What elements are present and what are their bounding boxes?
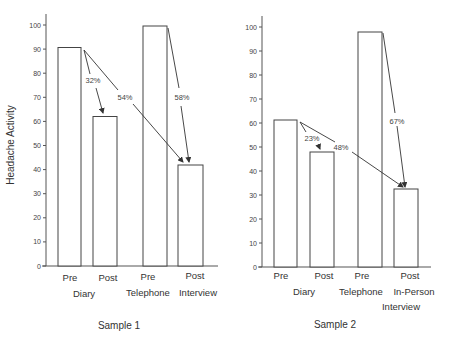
tick-label: 10 bbox=[249, 240, 257, 247]
category-label: Post bbox=[314, 270, 333, 281]
group-label: Diary bbox=[293, 286, 315, 297]
group-label: Telephone bbox=[126, 287, 170, 298]
tick-label: 80 bbox=[249, 72, 257, 79]
category-label: Post bbox=[400, 270, 419, 281]
annotation-label: 67% bbox=[389, 117, 404, 126]
bars bbox=[58, 26, 203, 266]
tick-label: 100 bbox=[245, 24, 257, 31]
category-label: Pre bbox=[274, 270, 289, 281]
tick-label: 10 bbox=[33, 238, 41, 245]
category-label: Post bbox=[185, 270, 204, 281]
group-label: Telephone bbox=[339, 286, 383, 297]
group-label: Diary bbox=[73, 288, 95, 299]
chart-title: Sample 2 bbox=[314, 319, 357, 330]
category-label: Pre bbox=[63, 272, 78, 283]
bar-in-person-post bbox=[394, 189, 418, 267]
category-label: Post bbox=[98, 272, 117, 283]
tick-label: 80 bbox=[33, 70, 41, 77]
annotation-label: 54% bbox=[117, 93, 132, 102]
bar-diary-post bbox=[310, 152, 334, 267]
annotation-label: 58% bbox=[174, 93, 189, 102]
chart-sample-1: 0 10 20 30 40 50 60 70 80 90 100 Headach… bbox=[5, 14, 218, 331]
bar-diary-pre bbox=[274, 120, 297, 267]
bar-telephone-pre bbox=[358, 32, 382, 267]
category-label: Pre bbox=[355, 270, 370, 281]
tick-label: 40 bbox=[249, 168, 257, 175]
bar-interview-post bbox=[178, 165, 203, 266]
bar-telephone-pre bbox=[143, 26, 167, 266]
tick-label: 40 bbox=[33, 166, 41, 173]
y-axis-label: Headache Activity bbox=[5, 105, 16, 185]
chart-sample-2: 0 10 20 30 40 50 60 70 80 90 100 23% bbox=[245, 16, 434, 330]
y-tick-labels: 0 10 20 30 40 50 60 70 80 90 100 bbox=[29, 22, 41, 270]
tick-label: 100 bbox=[29, 22, 41, 29]
tick-label: 50 bbox=[249, 144, 257, 151]
bar-diary-post bbox=[93, 117, 117, 267]
tick-label: 70 bbox=[33, 94, 41, 101]
tick-label: 60 bbox=[249, 120, 257, 127]
group-label: In-Person bbox=[393, 286, 434, 297]
tick-label: 60 bbox=[33, 118, 41, 125]
tick-label: 50 bbox=[33, 142, 41, 149]
group-label: Interview bbox=[179, 287, 217, 298]
tick-label: 90 bbox=[249, 48, 257, 55]
category-label: Pre bbox=[141, 271, 156, 282]
chart-title: Sample 1 bbox=[98, 320, 141, 331]
figure: 0 10 20 30 40 50 60 70 80 90 100 Headach… bbox=[0, 0, 453, 345]
tick-label: 90 bbox=[33, 46, 41, 53]
y-tick-labels: 0 10 20 30 40 50 60 70 80 90 100 bbox=[245, 24, 257, 271]
annotation-label: 48% bbox=[333, 143, 348, 152]
tick-label: 20 bbox=[33, 214, 41, 221]
tick-label: 70 bbox=[249, 96, 257, 103]
group-label: Interview bbox=[382, 301, 420, 312]
annotation-label: 23% bbox=[304, 134, 319, 143]
annotation-label: 32% bbox=[85, 76, 100, 85]
tick-label: 0 bbox=[37, 263, 41, 270]
tick-label: 30 bbox=[33, 190, 41, 197]
tick-label: 20 bbox=[249, 216, 257, 223]
tick-label: 0 bbox=[253, 264, 257, 271]
tick-label: 30 bbox=[249, 192, 257, 199]
bar-diary-pre bbox=[58, 48, 81, 267]
